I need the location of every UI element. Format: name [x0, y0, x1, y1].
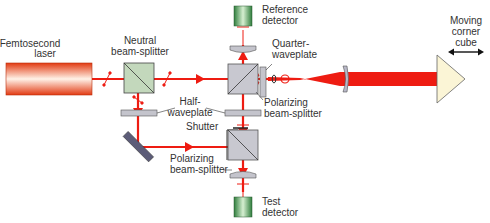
test-detector: [234, 197, 252, 217]
qwp-label-1: Quarter-: [272, 38, 309, 49]
lens-top: [230, 46, 256, 53]
quarter-waveplate: [260, 67, 266, 97]
hwp-label-2: waveplate: [166, 107, 212, 118]
ref-det-label-1: Reference: [262, 4, 309, 15]
leader-line: [266, 64, 272, 70]
half-waveplate-right: [225, 110, 261, 116]
pbs1-label-1: Polarizing: [264, 97, 308, 108]
hwp-label-1: Half-: [179, 96, 200, 107]
polarizing-beam-splitter-top: [228, 64, 258, 94]
neutral-bs-label-1: Neutral: [124, 35, 156, 46]
cube-label-1: Moving: [450, 15, 482, 26]
cube-label-3: cube: [455, 37, 477, 48]
reference-detector: [234, 6, 252, 26]
neutral-beam-splitter: [124, 63, 154, 93]
expanding-beam: [268, 72, 440, 86]
qwp-label-2: waveplate: [271, 49, 317, 60]
pbs1-label-2: beam-splitter: [264, 108, 322, 119]
beam-arrow: [185, 142, 194, 152]
double-arrow-icon: [448, 49, 484, 56]
femtosecond-laser: [6, 63, 92, 95]
test-det-label-1: Test: [262, 196, 281, 207]
pbs2-label-2: beam-splitter: [170, 164, 228, 175]
pbs2-label-1: Polarizing: [170, 153, 214, 164]
laser-label-2: laser: [34, 48, 56, 59]
beam-arrow: [196, 74, 205, 84]
test-det-label-2: detector: [262, 207, 299, 218]
interferometer-diagram: Femtosecond laser Neutral beam-splitter …: [0, 0, 490, 223]
lens-bottom: [230, 172, 256, 179]
half-waveplate-left: [121, 110, 157, 116]
shutter-label: Shutter: [186, 121, 219, 132]
polarizing-beam-splitter-bottom: [228, 130, 258, 160]
moving-corner-cube: [437, 55, 465, 103]
cube-label-2: corner: [452, 26, 481, 37]
neutral-bs-label-2: beam-splitter: [111, 46, 169, 57]
ref-det-label-2: detector: [262, 15, 299, 26]
